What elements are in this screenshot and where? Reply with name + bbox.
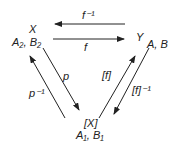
- node-x-attrs: A₂, B₂: [12, 37, 41, 48]
- arrow-bracket-f-inverse: [114, 48, 149, 114]
- edge-label-p: p: [63, 71, 69, 82]
- node-quotient-x-attrs: A₁, B₁: [76, 130, 104, 141]
- node-quotient-x-label: [X]: [84, 118, 97, 129]
- node-y-label: Y: [136, 32, 143, 43]
- edge-label-bracket-f: [f]: [102, 70, 111, 81]
- edge-label-bracket-f-inverse: [f]⁻¹: [132, 85, 151, 96]
- edge-label-p-inverse: p⁻¹: [29, 88, 45, 99]
- edge-label-f: f: [84, 42, 87, 53]
- node-x-label: X: [29, 24, 36, 35]
- node-y-attrs: A, B: [147, 39, 168, 50]
- edge-label-f-inverse: f⁻¹: [82, 10, 95, 21]
- arrow-p: [43, 48, 79, 110]
